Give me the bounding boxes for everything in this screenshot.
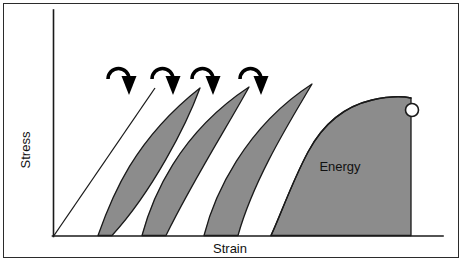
y-axis-label: Stress (18, 131, 33, 168)
stress-strain-plot: Stress Strain Energy (0, 0, 464, 263)
unload-arrow-1 (108, 69, 137, 96)
fracture-point-marker (406, 104, 419, 117)
unload-arrow-2 (152, 69, 181, 96)
energy-region-label: Energy (319, 159, 361, 174)
unload-arrow-2-head (166, 76, 181, 95)
x-axis-label: Strain (213, 241, 247, 256)
unload-arrow-4-head (254, 76, 269, 95)
unload-arrow-1-head (122, 76, 137, 95)
figure-root: Stress Strain Energy (0, 0, 464, 263)
unload-arrow-3-head (206, 76, 221, 95)
